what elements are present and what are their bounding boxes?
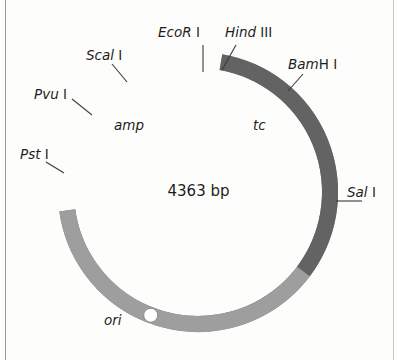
ori-segment xyxy=(67,210,303,324)
psti-site-label-upright: I xyxy=(40,146,48,162)
hindiii-site-label-italic: Hind xyxy=(225,24,256,40)
hindiii-site-label: Hind III xyxy=(225,26,272,40)
psti-site-leader xyxy=(46,162,64,173)
amp-label: amp xyxy=(114,119,144,133)
bamhi-site-label: BamH I xyxy=(288,58,337,72)
tc-segment xyxy=(221,62,330,271)
pvui-site-label: Pvu I xyxy=(34,88,67,102)
bamhi-site-label-italic: Bam xyxy=(288,56,319,72)
ecori-site-label-italic: EcoR xyxy=(158,24,192,40)
scai-site-label-upright: I xyxy=(114,47,122,63)
psti-site-label-italic: Pst xyxy=(20,146,40,162)
ori-label: ori xyxy=(104,314,122,328)
hindiii-site-label-upright: III xyxy=(256,24,272,40)
tc-label: tc xyxy=(253,119,266,133)
pvui-site-leader xyxy=(72,99,92,115)
scai-site-leader xyxy=(112,64,127,82)
bamhi-site-label-upright: H I xyxy=(319,56,337,72)
plasmid-size-label: 4363 bp xyxy=(0,184,397,199)
ecori-site-label-upright: I xyxy=(192,24,200,40)
psti-site-label: Pst I xyxy=(20,148,49,162)
scai-site-label: Scal I xyxy=(86,49,122,63)
plasmid-figure: EcoR I Hind III Scal I Pvu I Pst I BamH … xyxy=(0,0,397,360)
ecori-site-label: EcoR I xyxy=(158,26,200,40)
pvui-site-label-italic: Pvu xyxy=(34,86,59,102)
plasmid-ring-graphic xyxy=(0,0,397,360)
pvui-site-label-upright: I xyxy=(59,86,67,102)
scai-site-label-italic: Scal xyxy=(86,47,114,63)
bamhi-site-leader xyxy=(288,74,303,91)
ori-marker xyxy=(144,308,158,322)
